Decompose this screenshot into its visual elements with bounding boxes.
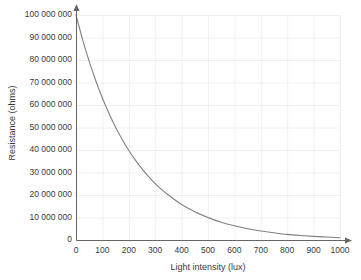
plot-area [76,15,340,240]
y-tick-label: 70 000 000 [29,78,72,87]
x-axis-title: Light intensity (lux) [76,262,340,272]
y-tick-label: 10 000 000 [29,213,72,222]
y-tick-label: 80 000 000 [29,55,72,64]
y-tick-label: 60 000 000 [29,100,72,109]
chart-container: 010 000 00020 000 00030 000 00040 000 00… [0,0,361,280]
axes [76,15,356,255]
x-tick-label: 1000 [331,245,350,255]
x-tick-label: 200 [122,245,136,255]
x-tick-label: 900 [307,245,321,255]
y-tick-label: 0 [67,235,72,244]
x-tick-label: 700 [254,245,268,255]
x-tick-label: 800 [280,245,294,255]
y-tick-label: 30 000 000 [29,168,72,177]
x-tick-label: 100 [95,245,109,255]
x-tick-label: 0 [74,245,79,255]
x-tick-label: 600 [227,245,241,255]
y-axis-title: Resistance (ohms) [7,53,17,193]
y-tick-label: 100 000 000 [25,10,72,19]
x-tick-label: 300 [148,245,162,255]
y-tick-label: 40 000 000 [29,145,72,154]
y-tick-label: 90 000 000 [29,33,72,42]
x-tick-label: 400 [175,245,189,255]
x-axis-tick-labels: 01002003004005006007008009001000 [76,245,356,259]
y-tick-label: 20 000 000 [29,190,72,199]
y-tick-label: 50 000 000 [29,123,72,132]
x-tick-label: 500 [201,245,215,255]
